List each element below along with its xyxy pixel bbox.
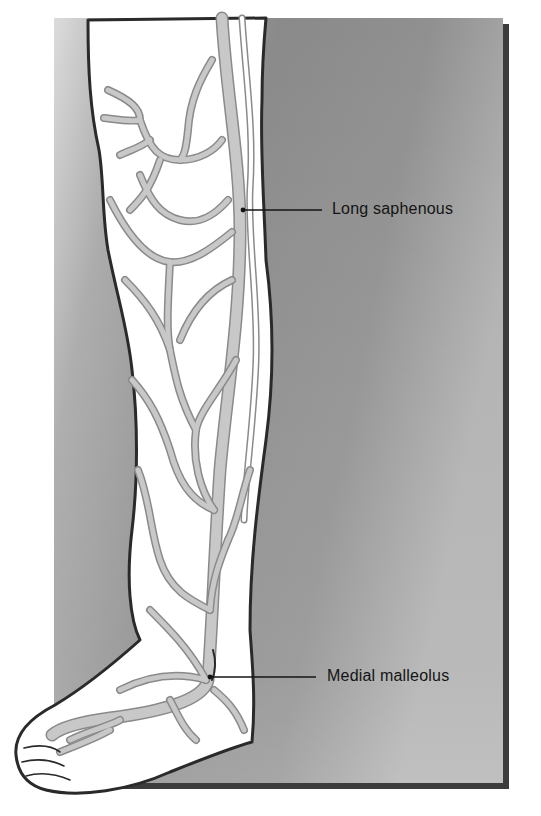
anatomy-figure: Long saphenous Medial malleolus: [0, 0, 541, 816]
label-long-saphenous: Long saphenous: [332, 200, 453, 218]
label-medial-malleolus: Medial malleolus: [327, 667, 449, 685]
leg-vein-illustration: [0, 0, 541, 816]
